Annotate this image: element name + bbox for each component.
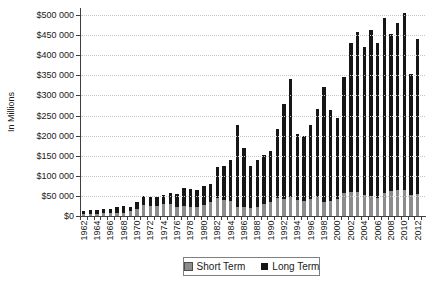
bar-short-term	[329, 201, 332, 216]
bar-long-term	[316, 109, 319, 198]
long-term-swatch-icon	[261, 263, 268, 270]
bar-short-term	[376, 198, 379, 216]
bar-short-term	[409, 195, 412, 216]
bar-long-term	[322, 87, 325, 202]
y-tick-label: $300 000	[26, 90, 74, 101]
plot-area	[80, 9, 425, 216]
y-tick-label: $150 000	[26, 151, 74, 162]
x-tick-label: 2000	[332, 221, 343, 247]
bar-long-term	[182, 188, 185, 206]
x-tick-label: 2004	[359, 221, 370, 247]
bar-long-term	[122, 206, 125, 213]
bar-long-term	[403, 13, 406, 189]
x-tick-label: 1966	[105, 221, 116, 247]
bar-short-term	[129, 211, 132, 216]
bar-short-term	[249, 208, 252, 216]
bar-long-term	[363, 47, 366, 195]
bar-long-term	[296, 134, 299, 200]
x-tick-label: 1974	[158, 221, 169, 247]
bar-long-term	[289, 79, 292, 197]
x-tick-label: 1988	[252, 221, 263, 247]
bar-short-term	[189, 207, 192, 216]
bar-long-term	[135, 202, 138, 209]
bar-long-term	[89, 210, 92, 214]
x-tick-label: 2012	[412, 221, 423, 247]
gridline	[81, 116, 425, 117]
bar-long-term	[249, 166, 252, 207]
x-tick-label: 1976	[172, 221, 183, 247]
bar-long-term	[349, 43, 352, 192]
bar-short-term	[89, 214, 92, 216]
bar-long-term	[262, 155, 265, 204]
bar-short-term	[302, 201, 305, 216]
bar-long-term	[82, 211, 85, 214]
x-tick-label: 2008	[385, 221, 396, 247]
bar-long-term	[282, 104, 285, 198]
bar-short-term	[242, 207, 245, 216]
x-tick-label: 2010	[399, 221, 410, 247]
bar-short-term	[256, 207, 259, 216]
bar-long-term	[195, 190, 198, 207]
bar-long-term	[216, 167, 219, 198]
bar-short-term	[82, 214, 85, 216]
gridline	[81, 55, 425, 56]
bar-short-term	[109, 213, 112, 216]
bar-short-term	[276, 198, 279, 216]
bar-short-term	[169, 204, 172, 216]
x-tick-label: 1996	[305, 221, 316, 247]
bar-short-term	[122, 213, 125, 216]
y-tick	[76, 136, 80, 137]
bar-short-term	[229, 201, 232, 216]
gridline	[81, 15, 425, 16]
bar-short-term	[102, 213, 105, 216]
bar-short-term	[162, 204, 165, 216]
bar-long-term	[95, 210, 98, 214]
bar-long-term	[189, 189, 192, 208]
bar-short-term	[322, 202, 325, 216]
short-term-swatch-icon	[184, 262, 193, 271]
y-tick	[76, 35, 80, 36]
bar-short-term	[316, 197, 319, 216]
x-tick-label: 1984	[225, 221, 236, 247]
bar-short-term	[236, 207, 239, 216]
x-tick-label: 1978	[185, 221, 196, 247]
x-tick-label: 1982	[212, 221, 223, 247]
gridline	[81, 95, 425, 96]
gridline	[81, 75, 425, 76]
bar-short-term	[222, 200, 225, 216]
legend-entry-short-term: Short Term	[184, 258, 246, 275]
gridline	[81, 35, 425, 36]
y-tick-label: $500 000	[26, 10, 74, 21]
bar-long-term	[356, 32, 359, 192]
y-tick-label: $100 000	[26, 171, 74, 182]
x-tick-label: 1994	[292, 221, 303, 247]
bar-short-term	[309, 199, 312, 216]
y-tick-label: $350 000	[26, 70, 74, 81]
x-tick-label: 1970	[132, 221, 143, 247]
y-tick-label: $200 000	[26, 131, 74, 142]
gridline	[81, 176, 425, 177]
bar-long-term	[102, 209, 105, 213]
x-tick-label: 1972	[145, 221, 156, 247]
bar-short-term	[216, 198, 219, 216]
legend-label-short-term: Short Term	[197, 258, 246, 275]
bar-short-term	[209, 202, 212, 216]
y-axis-title: In Millions	[5, 82, 17, 142]
y-tick	[76, 156, 80, 157]
x-tick-label: 2006	[372, 221, 383, 247]
y-tick-label: $0	[26, 211, 74, 222]
y-tick	[76, 15, 80, 16]
bar-long-term	[209, 184, 212, 203]
y-tick-label: $250 000	[26, 111, 74, 122]
y-tick	[76, 176, 80, 177]
bar-short-term	[369, 196, 372, 216]
gridline	[81, 136, 425, 137]
bar-short-term	[155, 206, 158, 216]
bar-long-term	[302, 136, 305, 200]
y-tick	[76, 75, 80, 76]
gridline	[81, 156, 425, 157]
x-tick-label: 1964	[91, 221, 102, 247]
bar-long-term	[169, 193, 172, 205]
x-tick-label: 1986	[238, 221, 249, 247]
bar-short-term	[135, 209, 138, 216]
